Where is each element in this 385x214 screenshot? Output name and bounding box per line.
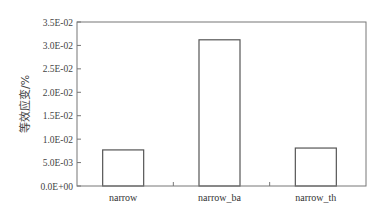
y-tick-label: 5.0E-03 bbox=[43, 158, 74, 168]
y-axis-title-group: 等效应变/% bbox=[18, 75, 32, 133]
x-category-label: narrow_th bbox=[295, 192, 336, 203]
y-tick-label: 0.0E+00 bbox=[40, 182, 73, 192]
y-tick-label: 3.0E-02 bbox=[43, 41, 74, 51]
y-tick-label: 1.5E-02 bbox=[43, 111, 74, 121]
y-tick-label: 2.0E-02 bbox=[43, 88, 74, 98]
y-tick-label: 1.0E-02 bbox=[43, 135, 74, 145]
bar-narrow-ba bbox=[199, 40, 240, 186]
bar-narrow-th bbox=[295, 148, 336, 186]
y-tick-label: 2.5E-02 bbox=[43, 64, 74, 74]
bar-narrow bbox=[103, 150, 144, 186]
bars bbox=[103, 40, 337, 186]
y-axis-title: 等效应变/% bbox=[18, 75, 32, 133]
y-tick-label: 3.5E-02 bbox=[43, 18, 74, 28]
y-axis-ticks: 0.0E+005.0E-031.0E-021.5E-022.0E-022.5E-… bbox=[40, 18, 81, 192]
bar-chart: 等效应变/% 0.0E+005.0E-031.0E-021.5E-022.0E-… bbox=[0, 0, 385, 214]
x-category-label: narrow bbox=[109, 192, 138, 203]
x-category-label: narrow_ba bbox=[198, 192, 241, 203]
